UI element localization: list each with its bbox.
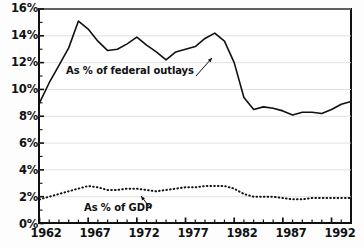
annotation-arrows (141, 58, 212, 209)
x-axis-ticks (40, 218, 352, 224)
chart-canvas (0, 0, 364, 248)
y-tick-label: 16% (11, 3, 38, 15)
y-tick-label: 4% (19, 165, 38, 177)
y-tick-label: 14% (11, 30, 38, 42)
y-tick-label: 12% (11, 57, 38, 69)
y-tick-label: 10% (11, 84, 38, 96)
chart-figure: 16% 14% 12% 10% 8% 6% 4% 2% 0% 1962 1967… (0, 0, 364, 248)
gridlines (40, 9, 352, 197)
annotation-federal-outlays: As % of federal outlays (66, 66, 194, 76)
annotation-gdp: As % of GDP (84, 203, 152, 213)
y-tick-label: 8% (19, 111, 38, 123)
series-line-gdp (40, 186, 352, 199)
y-tick-label: 2% (19, 192, 38, 204)
x-tick-label: 1992 (310, 228, 364, 240)
y-axis-ticks (40, 9, 45, 224)
y-tick-label: 6% (19, 138, 38, 150)
